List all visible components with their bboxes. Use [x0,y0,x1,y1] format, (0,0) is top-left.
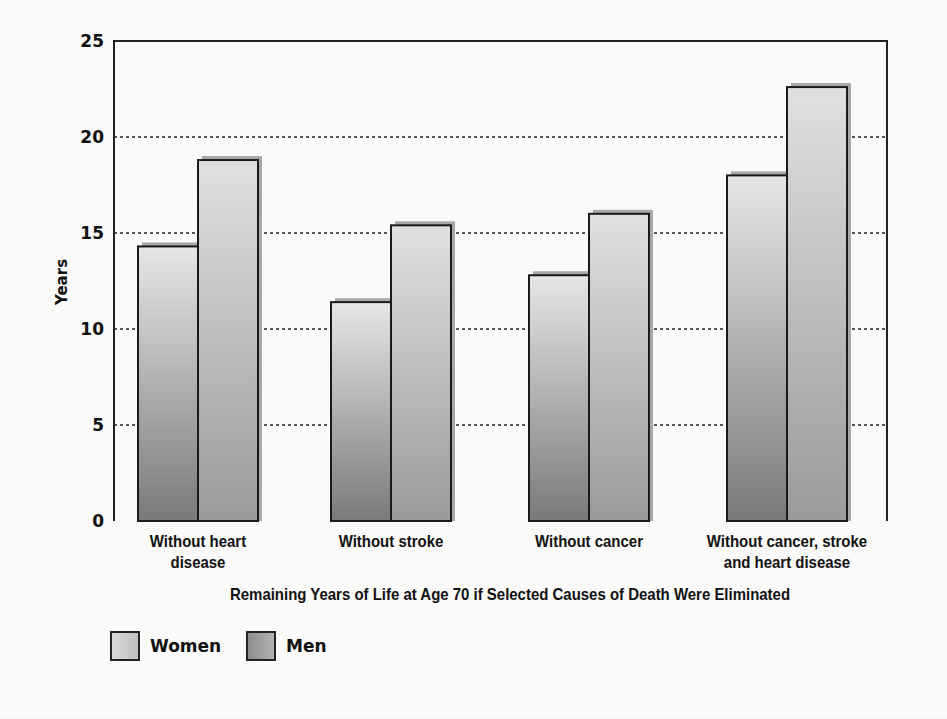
y-tick-label: 20 [80,127,104,147]
bar-men [391,225,451,521]
y-tick-label: 15 [80,223,104,243]
bar-women [727,175,787,521]
x-category-label: Without cancer [483,531,694,552]
bar-women [138,246,198,521]
x-category-label: Without heart disease [92,531,303,573]
bar-men [787,87,847,521]
y-tick-label: 5 [92,415,104,435]
bar-men [198,160,258,521]
y-tick-label: 10 [80,319,104,339]
x-axis-title: Remaining Years of Life at Age 70 if Sel… [149,585,871,605]
bar-women [529,275,589,521]
legend-swatch-men [246,631,276,661]
legend-label-men: Men [286,636,327,656]
y-axis-ticks: 0510152025 [80,31,104,531]
legend-swatch-women [110,631,140,661]
bar-men [589,214,649,521]
y-axis-label: Years [53,259,71,306]
bar-women [331,302,391,521]
x-category-label: Without stroke [285,531,496,552]
y-tick-label: 0 [92,511,104,531]
legend-label-women: Women [150,636,221,656]
x-category-label: Without cancer, stroke and heart disease [681,531,892,573]
legend-item-women: Women [110,631,221,661]
bar-chart: 0510152025 Years [0,0,947,719]
y-tick-label: 25 [80,31,104,51]
bars [138,83,851,521]
legend-item-men: Men [246,631,327,661]
